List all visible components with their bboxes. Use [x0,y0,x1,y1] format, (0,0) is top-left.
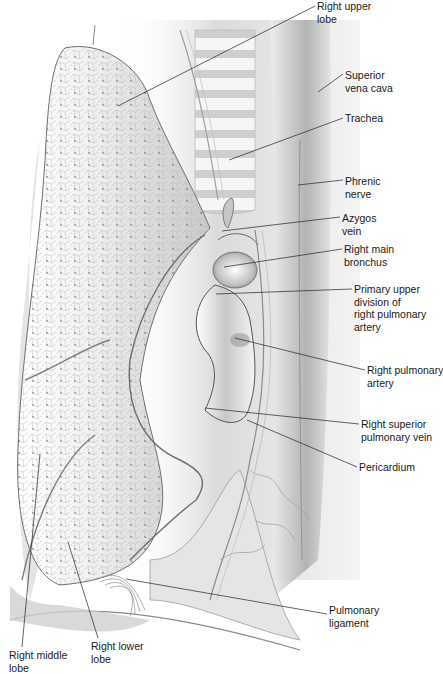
pulmonary-ligament [95,575,145,616]
label-primary-upper-division: Primary upper division of right pulmonar… [354,283,426,333]
label-trachea: Trachea [345,112,383,125]
label-right-superior-pulmonary-vein: Right superior pulmonary vein [361,418,432,443]
label-azygos-vein: Azygos vein [342,212,376,237]
label-right-pulmonary-artery: Right pulmonary artery [367,364,443,389]
label-right-main-bronchus: Right main bronchus [344,243,394,268]
label-right-middle-lobe: Right middle lobe [9,649,67,674]
label-right-lower-lobe: Right lower lobe [91,640,144,665]
label-phrenic-nerve: Phrenic nerve [345,175,381,200]
label-pulmonary-ligament: Pulmonary ligament [329,604,379,629]
label-superior-vena-cava: Superior vena cava [345,69,393,94]
label-right-upper-lobe: Right upper lobe [317,0,371,25]
label-pericardium: Pericardium [359,461,415,474]
